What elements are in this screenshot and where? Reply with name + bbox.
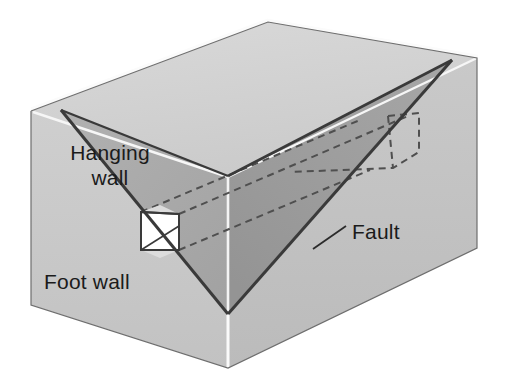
block-diagram-svg: Hanging wall Foot wall Fault xyxy=(0,0,505,389)
foot-wall-label: Foot wall xyxy=(44,270,130,293)
hanging-wall-label-line1: Hanging xyxy=(70,141,150,164)
hanging-wall-label-line2: wall xyxy=(91,166,129,189)
fault-block-figure: Hanging wall Foot wall Fault xyxy=(0,0,505,389)
fault-label: Fault xyxy=(352,220,400,243)
